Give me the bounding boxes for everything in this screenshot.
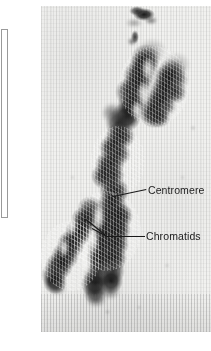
centromere-label: Centromere: [148, 184, 204, 196]
micrograph-plate: [41, 6, 211, 332]
figure-root: Centromere Chromatids: [0, 0, 211, 351]
chromosome-specimen: [41, 6, 211, 332]
chromatids-label: Chromatids: [146, 230, 201, 242]
caption-box: [1, 29, 8, 218]
chromatids-leader-line: [107, 236, 145, 237]
